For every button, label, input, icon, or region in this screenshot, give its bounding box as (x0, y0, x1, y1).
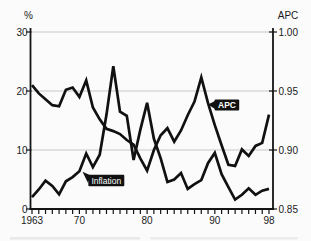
x-tick-label: 70 (74, 215, 86, 226)
x-tick-label: 90 (209, 215, 221, 226)
inflation-annotation: Inflation (83, 172, 125, 186)
left-tick-label: 20 (16, 86, 28, 97)
cropped-caption-remnant (10, 237, 298, 240)
x-tick-label: 98 (263, 215, 275, 226)
x-tick-label: 1963 (21, 215, 44, 226)
right-tick-label: 0.90 (279, 145, 299, 156)
inflation-annotation-label: Inflation (91, 176, 121, 186)
caption-remnant-strip (10, 237, 140, 240)
chart-svg: 3020100 1.000.950.900.85 196370809098 % … (0, 0, 311, 241)
left-axis-title: % (24, 10, 33, 21)
caption-remnant-strip (150, 237, 298, 240)
right-axis-title: APC (278, 10, 299, 21)
right-tick-label: 0.95 (279, 86, 299, 97)
left-tick-label: 30 (16, 27, 28, 38)
apc-annotation-label: APC (218, 100, 236, 110)
x-tick-label: 80 (142, 215, 154, 226)
chart-figure: 3020100 1.000.950.900.85 196370809098 % … (0, 0, 311, 241)
apc-annotation: APC (208, 99, 239, 110)
right-tick-label: 1.00 (279, 27, 299, 38)
right-tick-label: 0.85 (279, 204, 299, 215)
left-tick-label: 0 (22, 204, 28, 215)
tick-labels-right: 1.000.950.900.85 (279, 27, 299, 215)
tick-labels-x: 196370809098 (21, 215, 275, 226)
left-tick-label: 10 (16, 145, 28, 156)
inflation-series-line (32, 66, 269, 199)
tick-labels-left: 3020100 (16, 27, 28, 215)
